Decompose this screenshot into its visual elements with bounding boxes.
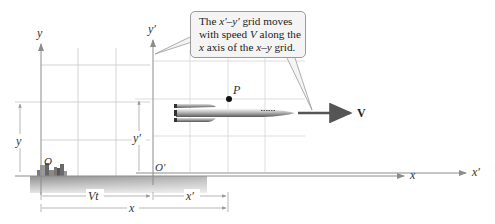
- callout-pointer-left: [155, 36, 192, 54]
- velocity-label: V: [357, 106, 366, 120]
- dimension-x-prime-label: x′: [185, 189, 194, 203]
- point-P: [226, 96, 232, 102]
- dimension-y-prime-label: y′: [132, 131, 141, 145]
- y-prime-axis-label: y′: [147, 22, 156, 36]
- y-axis-label: y: [36, 26, 43, 40]
- dimension-x-label: x: [128, 201, 135, 215]
- callout-box: The x′–y′ grid moves with speed V along …: [190, 11, 306, 58]
- point-P-label: P: [232, 83, 241, 97]
- dimension-Vt-label: Vt: [88, 189, 99, 203]
- x-axis-label: x: [409, 168, 416, 182]
- callout-pointer-right: [287, 58, 312, 110]
- callout-line-2: with speed V along the: [199, 28, 305, 41]
- xy-grid: [15, 48, 150, 176]
- callout-line-3: x axis of the x–y grid.: [199, 41, 305, 54]
- rocket-icon: [174, 104, 295, 122]
- origin-prime-label: O′: [155, 161, 166, 173]
- origin-label: O: [44, 155, 52, 167]
- x-prime-axis-label: x′: [471, 165, 480, 179]
- callout-line-1: The x′–y′ grid moves: [199, 15, 305, 28]
- ground: [30, 176, 207, 193]
- dimension-y-label: y: [15, 134, 22, 148]
